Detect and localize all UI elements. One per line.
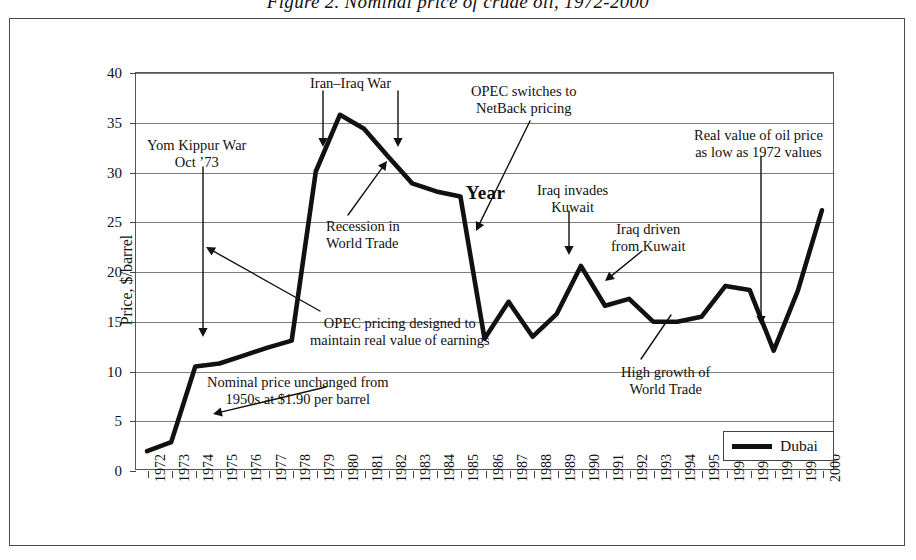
- annotation-yom-kippur: Yom Kippur War Oct ’73: [147, 137, 246, 171]
- annotation-real-value-1972: Real value of oil price as low as 1972 v…: [694, 127, 823, 161]
- figure-root: Figure 2. Nominal price of crude oil, 19…: [0, 0, 916, 560]
- annotation-iraq-invades-kuwait: Iraq invades Kuwait: [537, 182, 608, 216]
- annotation-iraq-driven-from-kuwait: Iraq driven from Kuwait: [611, 221, 686, 255]
- legend-swatch-dubai: [732, 444, 772, 449]
- opec-netback-pointer-leader: [480, 121, 530, 223]
- iraq-driven-pointer-arrowhead: [605, 272, 615, 281]
- annotation-nominal-price-unchanged: Nominal price unchanged from 1950s at $1…: [207, 374, 389, 408]
- chart-overlay: [10, 19, 906, 547]
- recession-pointer-leader: [348, 168, 382, 215]
- annotation-opec-pricing: OPEC pricing designed to maintain real v…: [310, 315, 490, 349]
- annotation-recession-world-trade: Recession in World Trade: [326, 218, 400, 252]
- annotation-iran-iraq-war: Iran–Iraq War: [310, 75, 391, 92]
- yom-kippur-pointer-arrowhead: [198, 328, 207, 337]
- recession-pointer-arrowhead: [378, 161, 387, 171]
- iraq-invades-kuwait-pointer-arrowhead: [564, 246, 573, 255]
- iran-iraq-war-pointer-right-arrowhead: [393, 138, 402, 147]
- legend-label-dubai: Dubai: [780, 437, 818, 455]
- annotation-high-growth-world-trade: High growth of World Trade: [621, 364, 710, 398]
- annotation-opec-netback: OPEC switches to NetBack pricing: [471, 83, 577, 117]
- figure-title: Figure 2. Nominal price of crude oil, 19…: [0, 0, 916, 13]
- figure-frame: Price, $/barrel 051015202530354019721973…: [9, 18, 905, 546]
- nominal-price-pointer-arrowhead: [213, 407, 223, 416]
- chart-legend[interactable]: Dubai: [723, 431, 834, 461]
